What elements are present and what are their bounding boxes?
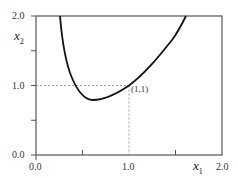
curve-line — [60, 16, 186, 100]
y-tick-label: 2.0 — [12, 11, 25, 21]
point-annotation: (1,1) — [131, 84, 148, 94]
x-tick-label: 2.0 — [216, 162, 229, 172]
x-tick-label: 1.0 — [122, 162, 135, 172]
y-axis-title: x2 — [14, 28, 24, 46]
x-axis-title: x1 — [193, 158, 203, 176]
x-tick-label: 0.0 — [29, 162, 42, 172]
chart-canvas — [0, 0, 238, 178]
y-tick-label: 0.0 — [12, 150, 25, 160]
y-tick-label: 1.0 — [12, 81, 25, 91]
